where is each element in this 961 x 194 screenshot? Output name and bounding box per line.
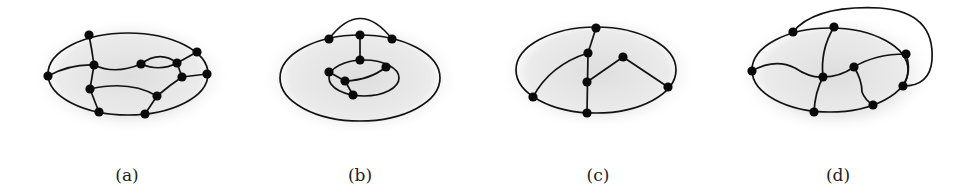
graph-vertex (94, 107, 103, 116)
graph-vertex (140, 109, 149, 118)
graph-vertex (202, 69, 211, 78)
graph-vertex (85, 84, 94, 93)
graph-vertex (788, 27, 797, 36)
graph-vertex (898, 81, 907, 90)
panel-label-a: (a) (115, 165, 138, 185)
graph-vertex (324, 67, 333, 76)
graph-vertex (355, 30, 364, 39)
graph-vertex (747, 66, 756, 75)
graph-vertex (324, 34, 333, 43)
surface-shading (30, 18, 230, 134)
graph-vertex (89, 60, 98, 69)
figure-canvas: (a)(b)(c)(d) (0, 0, 961, 194)
graph-vertex (582, 108, 591, 117)
panel-label-d: (d) (826, 165, 850, 185)
graph-vertex (355, 55, 364, 64)
graph-vertex (829, 22, 838, 31)
graph-vertex (901, 49, 910, 58)
graph-vertex (809, 107, 818, 116)
graph-vertex (618, 52, 627, 61)
panel-c: (c) (498, 14, 698, 185)
graph-vertex (84, 30, 93, 39)
graph-vertex (177, 72, 186, 81)
graph-vertex (340, 76, 349, 85)
graph-vertex (528, 92, 537, 101)
graph-vertex (172, 58, 181, 67)
graph-vertex (381, 62, 390, 71)
graph-vertex (192, 47, 201, 56)
surface-shading (735, 14, 935, 134)
panel-d: (d) (735, 8, 935, 185)
panel-b: (b) (260, 19, 460, 186)
graph-vertex (152, 91, 161, 100)
graph-vertex (591, 23, 600, 32)
graph-vertex (849, 62, 858, 71)
graph-vertex (136, 59, 145, 68)
graph-vertex (663, 82, 672, 91)
graph-vertex (387, 34, 396, 43)
panel-label-b: (b) (348, 165, 372, 185)
graph-vertex (348, 90, 357, 99)
graph-vertex (818, 72, 827, 81)
graph-vertex (43, 71, 52, 80)
graph-vertex (583, 48, 592, 57)
graph-vertex (582, 77, 591, 86)
graph-vertex (868, 100, 877, 109)
panel-label-c: (c) (587, 165, 610, 185)
panel-a: (a) (30, 18, 230, 185)
